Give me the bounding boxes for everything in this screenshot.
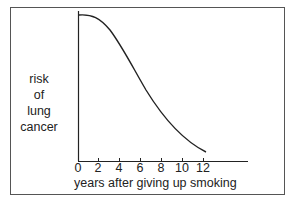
x-tick-label: 10 [175,161,189,175]
x-tick-label: 12 [196,161,210,175]
risk-curve [79,15,206,152]
x-tick-label: 2 [95,161,102,175]
plot-area [0,0,292,204]
x-tick-label: 6 [137,161,144,175]
x-tick-label: 0 [75,161,82,175]
x-axis-label: years after giving up smoking [74,176,237,190]
x-tick-label: 8 [158,161,165,175]
x-tick-label: 4 [116,161,123,175]
